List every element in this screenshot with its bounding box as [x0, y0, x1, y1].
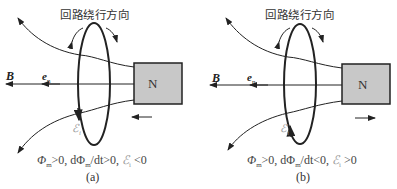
circulation-arrow-left: [72, 28, 83, 42]
label-B: B: [212, 71, 220, 86]
label-emf: ℰi: [72, 122, 81, 137]
panel-a: 回路绕行方向 B en N ℰi Φm>0, dΦm/dt>0, ℰi <0 (…: [0, 0, 198, 189]
circulation-arrow-right: [312, 28, 323, 42]
label-N: N: [358, 77, 367, 93]
caption-b: (b): [296, 170, 310, 185]
field-line-top: [226, 18, 342, 68]
caption-a: (a): [86, 170, 99, 185]
label-emf: ℰi: [280, 122, 289, 137]
label-N: N: [148, 76, 157, 92]
emf-direction-arrow: [290, 126, 291, 137]
loop-direction-title: 回路绕行方向: [265, 6, 334, 22]
emf-direction-arrow: [78, 108, 79, 120]
label-en: en: [42, 70, 50, 85]
circulation-arrow-right: [106, 28, 117, 42]
label-en: en: [247, 71, 255, 86]
loop-direction-title: 回路绕行方向: [60, 6, 129, 22]
panel-b: 回路绕行方向 B en N ℰi Φm>0, dΦm/dt<0, ℰi >0 (…: [200, 0, 397, 189]
label-B: B: [6, 69, 14, 84]
formula-a: Φm>0, dΦm/dt>0, ℰi <0: [37, 153, 147, 169]
magnet-n-pole: [134, 63, 182, 104]
field-line-top: [18, 18, 134, 67]
formula-b: Φm>0, dΦm/dt<0, ℰi >0: [247, 153, 357, 169]
